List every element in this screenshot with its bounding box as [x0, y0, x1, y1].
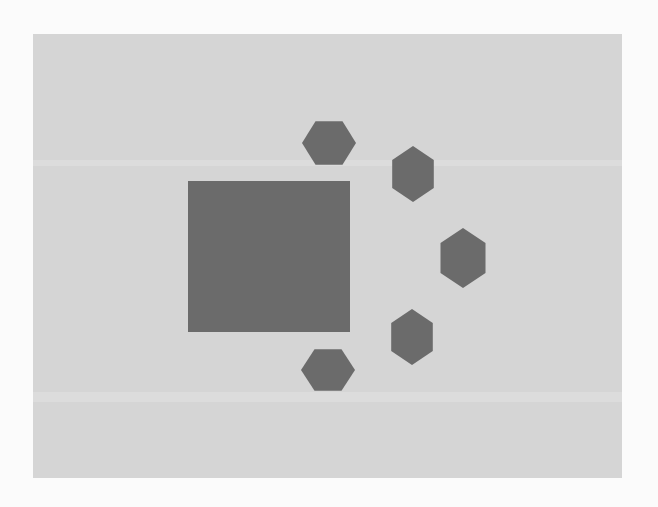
hexagon-right — [441, 228, 486, 288]
central-square — [188, 181, 350, 332]
hexagon-lower-right — [391, 309, 433, 365]
figure-page — [0, 0, 658, 507]
hexagon-top — [302, 121, 356, 164]
hexagon-upper-right — [392, 146, 434, 202]
hexagon-bottom — [301, 349, 355, 391]
shapes-diagram — [0, 0, 658, 507]
